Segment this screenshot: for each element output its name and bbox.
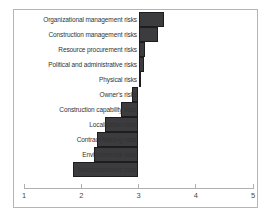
x-axis-tick-label: 3 <box>131 191 147 200</box>
x-axis-tick <box>195 184 196 188</box>
x-axis-line <box>24 188 254 189</box>
risk-bar <box>139 12 164 27</box>
category-label: Contract bidding risks <box>14 132 137 147</box>
risk-bar <box>139 27 158 42</box>
x-axis-tick-label: 1 <box>16 191 32 200</box>
plot-area: Organizational management risksConstruct… <box>14 10 257 207</box>
risk-bar <box>139 42 146 57</box>
risk-bar <box>139 72 142 87</box>
x-axis-tick-label: 2 <box>73 191 89 200</box>
x-axis-tick-label: 4 <box>188 191 204 200</box>
category-label: Organizational management risks <box>14 12 137 27</box>
category-label: Construction management risks <box>14 27 137 42</box>
chart-frame: Organizational management risksConstruct… <box>13 9 258 208</box>
category-label: Political and administrative risks <box>14 57 137 72</box>
x-axis-tick <box>24 184 25 188</box>
category-label: Construction capability risks <box>14 102 137 117</box>
chart-canvas: Organizational management risksConstruct… <box>0 0 272 216</box>
risk-bar <box>139 57 144 72</box>
x-axis-tick <box>138 184 139 188</box>
x-axis-tick-label: 5 <box>245 191 261 200</box>
category-label: Environmental risks <box>14 147 137 162</box>
category-label: Macroeconomic risks <box>14 162 137 177</box>
category-label: Owner's risks <box>14 87 137 102</box>
category-label: Physical risks <box>14 72 137 87</box>
x-axis-tick <box>253 184 254 188</box>
category-label: Resource procurement risks <box>14 42 137 57</box>
x-axis-tick <box>81 184 82 188</box>
category-label: Localization risks <box>14 117 137 132</box>
